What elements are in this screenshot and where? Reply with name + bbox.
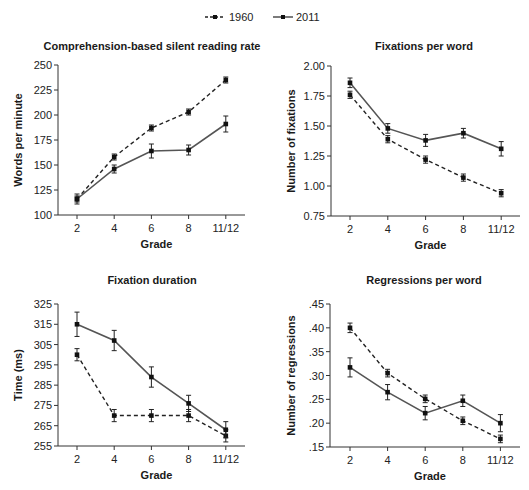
x-tick-label: 8 — [186, 222, 192, 234]
data-point — [423, 411, 428, 416]
y-axis-label: Time (ms) — [12, 349, 24, 401]
data-point — [348, 326, 353, 331]
data-point — [348, 93, 353, 98]
y-tick-label: 2.00 — [304, 60, 325, 72]
y-tick-label: 225 — [34, 84, 52, 96]
legend-1960-marker — [213, 15, 217, 19]
chart-title: Fixations per word — [375, 40, 473, 52]
x-tick-label: 11/12 — [487, 454, 514, 466]
x-tick-label: 6 — [148, 222, 154, 234]
y-tick-label: 200 — [34, 109, 52, 121]
x-tick-label: 11/12 — [212, 222, 239, 234]
y-tick-label: 275 — [34, 399, 52, 411]
data-point — [186, 413, 191, 418]
x-tick-label: 8 — [460, 454, 466, 466]
data-point — [75, 352, 80, 357]
x-axis-label: Grade — [141, 469, 173, 481]
data-point — [149, 126, 154, 131]
chart-title: Fixation duration — [107, 274, 197, 286]
x-tick-label: 2 — [347, 454, 353, 466]
data-point — [112, 167, 117, 172]
data-point — [348, 365, 353, 370]
y-tick-label: 125 — [34, 184, 52, 196]
figure: 1960 2011 Comprehension-based silent rea… — [0, 0, 529, 490]
chart-panel-3: Fixation duration25526527528529530531532… — [12, 274, 245, 481]
y-tick-label: .15 — [309, 441, 324, 453]
series-1960 — [348, 323, 503, 443]
x-tick-label: 4 — [111, 222, 117, 234]
data-point — [348, 81, 353, 86]
data-point — [385, 390, 390, 395]
data-point — [461, 131, 466, 136]
y-tick-label: .45 — [309, 298, 324, 310]
series-line-2011 — [77, 124, 226, 199]
data-point — [224, 122, 229, 127]
y-tick-label: 1.25 — [304, 150, 325, 162]
data-point — [386, 137, 391, 142]
y-tick-label: 175 — [34, 134, 52, 146]
x-tick-label: 11/12 — [488, 223, 515, 235]
x-tick-label: 11/12 — [212, 453, 239, 465]
x-axis-label: Grade — [141, 238, 173, 250]
y-axis-label: Words per minute — [12, 93, 24, 186]
y-tick-label: 0.75 — [304, 210, 325, 222]
chart-panel-1: Comprehension-based silent reading rate1… — [12, 40, 261, 250]
data-point — [423, 138, 428, 143]
y-tick-label: 1.50 — [304, 120, 325, 132]
data-point — [423, 157, 428, 162]
chart-panel-4: Regressions per word.15.20.25.30.35.40.4… — [285, 274, 520, 482]
y-axis-label: Number of regressions — [285, 315, 297, 435]
x-tick-label: 6 — [422, 454, 428, 466]
data-point — [224, 427, 229, 432]
x-tick-label: 4 — [385, 454, 391, 466]
legend: 1960 2011 — [205, 11, 320, 23]
y-tick-label: 295 — [34, 359, 52, 371]
data-point — [186, 148, 191, 153]
data-point — [75, 197, 80, 202]
y-tick-label: 325 — [34, 298, 52, 310]
y-tick-label: 1.00 — [304, 180, 325, 192]
chart-title: Regressions per word — [366, 274, 482, 286]
chart-title: Comprehension-based silent reading rate — [44, 40, 261, 52]
data-point — [186, 401, 191, 406]
series-1960 — [75, 349, 229, 442]
legend-2011-label: 2011 — [296, 11, 320, 23]
data-point — [112, 338, 117, 343]
series-line-1960 — [350, 328, 500, 439]
data-point — [461, 175, 466, 180]
data-point — [149, 375, 154, 380]
y-tick-label: .20 — [309, 417, 324, 429]
y-tick-label: 265 — [34, 420, 52, 432]
data-point — [149, 413, 154, 418]
x-axis-label: Grade — [414, 470, 446, 482]
data-point — [149, 149, 154, 154]
legend-1960-label: 1960 — [229, 11, 253, 23]
x-tick-label: 2 — [74, 222, 80, 234]
x-tick-label: 2 — [347, 223, 353, 235]
x-tick-label: 2 — [74, 453, 80, 465]
data-point — [75, 322, 80, 327]
series-2011 — [348, 78, 504, 156]
y-tick-label: 285 — [34, 379, 52, 391]
x-tick-label: 8 — [460, 223, 466, 235]
chart-panel-2: Fixations per word0.751.001.251.501.752.… — [285, 40, 520, 251]
data-point — [224, 78, 229, 83]
y-tick-label: 150 — [34, 159, 52, 171]
y-tick-label: 100 — [34, 209, 52, 221]
data-point — [498, 437, 503, 442]
x-axis-label: Grade — [415, 239, 447, 251]
y-tick-label: .25 — [309, 393, 324, 405]
y-tick-label: 305 — [34, 339, 52, 351]
y-tick-label: 255 — [34, 440, 52, 452]
x-tick-label: 6 — [423, 223, 429, 235]
data-point — [461, 418, 466, 423]
y-tick-label: 315 — [34, 318, 52, 330]
data-point — [499, 191, 504, 196]
data-point — [499, 147, 504, 152]
data-point — [112, 155, 117, 160]
data-point — [186, 110, 191, 115]
data-point — [498, 421, 503, 426]
data-point — [461, 398, 466, 403]
x-tick-label: 4 — [111, 453, 117, 465]
x-tick-label: 4 — [385, 223, 391, 235]
